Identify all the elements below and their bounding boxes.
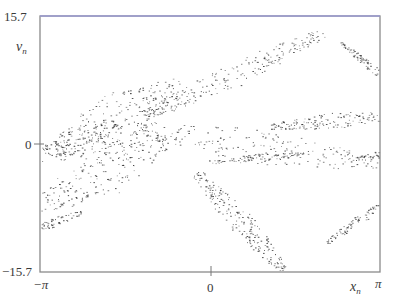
x-tick-min: −π <box>33 278 48 291</box>
y-tick-zero: 0 <box>25 138 32 151</box>
x-tick-zero: 0 <box>207 281 214 294</box>
y-axis-label: vn <box>16 40 27 56</box>
y-tick-min: −15.7 <box>2 265 32 278</box>
x-axis-sub: n <box>356 286 361 296</box>
x-tick-max: π <box>375 277 382 290</box>
data-points <box>41 31 380 271</box>
y-axis-sub: n <box>22 46 27 56</box>
y-tick-max: 15.7 <box>4 10 27 23</box>
scatter-plot <box>0 0 400 304</box>
plot-frame <box>40 16 380 272</box>
x-axis-label: xn <box>350 280 361 296</box>
